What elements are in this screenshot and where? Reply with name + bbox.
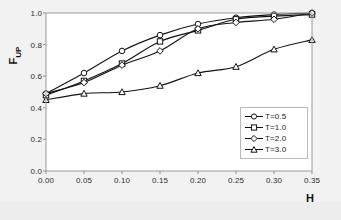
legend-item[interactable]: T=0.5 <box>244 111 303 122</box>
legend-item-label: T=0.5 <box>264 112 286 121</box>
legend-marker-triangle-icon <box>244 144 264 155</box>
legend-item[interactable]: T=3.0 <box>244 144 303 155</box>
legend-item[interactable]: T=1.0 <box>244 122 303 133</box>
y-axis-title-base: F <box>7 58 19 65</box>
x-tick-label: 0.30 <box>266 176 282 185</box>
y-tick-label: 0.6 <box>20 72 42 81</box>
x-tick-label: 0.10 <box>114 176 130 185</box>
chart-legend: T=0.5 T=1.0 T=2.0 T=3.0 <box>240 107 308 159</box>
chart-figure: 0.00 0.05 0.10 0.15 0.20 0.25 0.30 0.35 … <box>0 0 341 220</box>
x-tick-label: 0.20 <box>190 176 206 185</box>
y-tick-label: 0.2 <box>20 135 42 144</box>
y-tick-label: 0.0 <box>20 167 42 176</box>
data-point <box>81 70 87 76</box>
y-axis-title-subscript: UP <box>14 47 23 58</box>
y-tick-label: 0.8 <box>20 40 42 49</box>
legend-item[interactable]: T=2.0 <box>244 133 303 144</box>
data-point <box>119 48 125 54</box>
legend-marker-square-icon <box>244 122 264 133</box>
y-tick-label: 0.4 <box>20 103 42 112</box>
y-tick-label: 1.0 <box>20 9 42 18</box>
legend-marker-diamond-icon <box>244 133 264 144</box>
legend-marker-circle-icon <box>244 111 264 122</box>
data-point <box>157 32 163 38</box>
y-axis-title: FUP <box>7 35 22 77</box>
legend-item-label: T=2.0 <box>264 134 286 143</box>
x-tick-label: 0.35 <box>304 176 320 185</box>
x-axis-title: H <box>306 192 314 204</box>
data-point <box>157 39 162 44</box>
x-tick-label: 0.25 <box>228 176 244 185</box>
x-tick-label: 0.15 <box>152 176 168 185</box>
x-tick-label: 0.05 <box>76 176 92 185</box>
x-tick-label: 0.00 <box>38 176 54 185</box>
legend-item-label: T=1.0 <box>264 123 286 132</box>
legend-item-label: T=3.0 <box>264 145 286 154</box>
